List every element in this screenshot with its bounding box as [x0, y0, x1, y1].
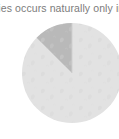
screenshot-root: cies occurs naturally only in G — [0, 0, 119, 139]
pie-chart-svg — [0, 18, 119, 139]
pie-chart — [0, 18, 119, 139]
pie-texture-overlay — [0, 18, 119, 139]
caption-text: cies occurs naturally only in G — [0, 1, 119, 15]
